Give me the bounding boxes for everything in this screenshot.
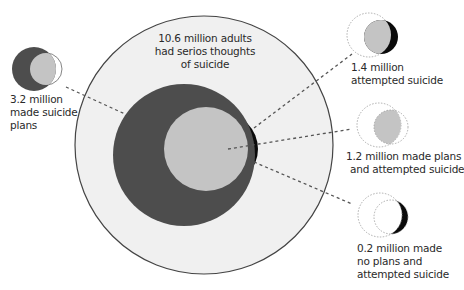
- no-plans-attempted-label-line: no plans and: [357, 255, 449, 268]
- no-plans-attempted-label: 0.2 million made no plans and attempted …: [357, 242, 449, 281]
- thoughts-label-line: 10.6 million adults: [150, 32, 260, 45]
- plans-label-line: made suicide: [10, 106, 78, 119]
- plans-icon: [12, 47, 62, 91]
- attempted-label-line: attempted suicide: [351, 74, 443, 87]
- attempted-icon: [347, 13, 398, 57]
- plans-and-attempted-label: 1.2 million made plans and attempted sui…: [346, 150, 464, 176]
- thoughts-label-line: had serios thoughts: [150, 45, 260, 58]
- plans-label: 3.2 million made suicide plans: [10, 93, 78, 132]
- thoughts-label-line: of suicide: [150, 58, 260, 71]
- no-plans-attempted-icon: [358, 193, 408, 237]
- no-plans-attempted-label-line: 0.2 million made: [357, 242, 449, 255]
- plans-and-attempted-label-line: 1.2 million made plans: [346, 150, 464, 163]
- plans-label-line: 3.2 million: [10, 93, 78, 106]
- plans-label-line: plans: [10, 119, 78, 132]
- thoughts-label: 10.6 million adults had serios thoughts …: [150, 32, 260, 71]
- no-plans-attempted-label-line: attempted suicide: [357, 268, 449, 281]
- plans-and-attempted-icon: [357, 103, 408, 147]
- attempted-label-line: 1.4 million: [351, 61, 443, 74]
- plans-and-attempted-label-line: and attempted suicide: [346, 163, 464, 176]
- plans-and-attempted-circle: [164, 107, 248, 191]
- attempted-label: 1.4 million attempted suicide: [351, 61, 443, 87]
